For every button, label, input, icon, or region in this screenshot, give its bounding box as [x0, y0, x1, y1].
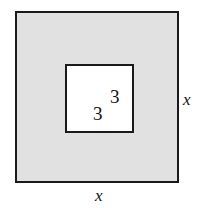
inner-square-side-label-top: 3	[110, 87, 120, 106]
inner-square-side-label-left: 3	[93, 104, 103, 123]
outer-square-side-label-bottom: x	[95, 187, 103, 204]
geometry-figure: 3 3 x x	[0, 0, 207, 208]
inner-square: 3 3	[65, 64, 134, 133]
outer-square: 3 3	[15, 11, 179, 183]
outer-square-side-label-right: x	[183, 91, 191, 108]
